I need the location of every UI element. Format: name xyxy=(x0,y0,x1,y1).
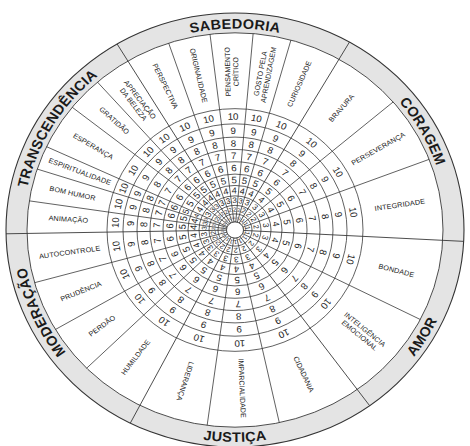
score-number: 7 xyxy=(231,150,237,161)
score-number: 4 xyxy=(188,225,199,230)
score-number: 9 xyxy=(124,221,136,227)
score-number: 2 xyxy=(234,246,239,255)
center-hub xyxy=(227,222,244,238)
score-number: 8 xyxy=(236,311,242,322)
score-number: 5 xyxy=(231,174,237,185)
score-number: 5 xyxy=(234,275,240,286)
score-number: 5 xyxy=(176,224,188,230)
score-number: 10 xyxy=(234,338,245,349)
score-number: 6 xyxy=(164,223,176,229)
score-number: 9 xyxy=(230,125,236,136)
score-number: 3 xyxy=(232,196,237,205)
score-number: 4 xyxy=(232,186,237,196)
score-number: 3 xyxy=(233,255,238,264)
score-number: 10 xyxy=(227,111,238,122)
wheel-root: SABEDORIA12345678910PERSPECTIVA123456789… xyxy=(6,13,464,446)
score-number: 7 xyxy=(235,299,241,310)
score-number: 7 xyxy=(151,222,163,228)
score-number: 10 xyxy=(250,112,263,124)
score-number: 6 xyxy=(231,163,237,174)
score-number: 10 xyxy=(347,206,360,218)
score-number: 10 xyxy=(110,240,123,252)
virtue-label-justica: JUSTIÇA xyxy=(203,427,268,445)
score-number: 4 xyxy=(234,264,240,274)
score-number: 2 xyxy=(233,207,236,213)
score-number: 8 xyxy=(231,138,237,149)
strengths-wheel-diagram: SABEDORIA12345678910PERSPECTIVA123456789… xyxy=(0,0,470,446)
score-number: 6 xyxy=(235,287,241,298)
score-number: 8 xyxy=(138,221,150,227)
score-number: 10 xyxy=(109,217,121,228)
score-number: 9 xyxy=(236,324,242,335)
